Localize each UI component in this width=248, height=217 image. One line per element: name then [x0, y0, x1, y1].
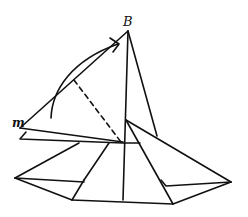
- right-panel: [126, 120, 231, 204]
- fold-arrow-icon: [51, 38, 119, 118]
- left-point-label: m: [12, 116, 25, 130]
- apex-label: B: [122, 14, 133, 29]
- valley-fold-dashed-line: [74, 80, 121, 142]
- origami-fold-diagram: B m: [0, 0, 248, 217]
